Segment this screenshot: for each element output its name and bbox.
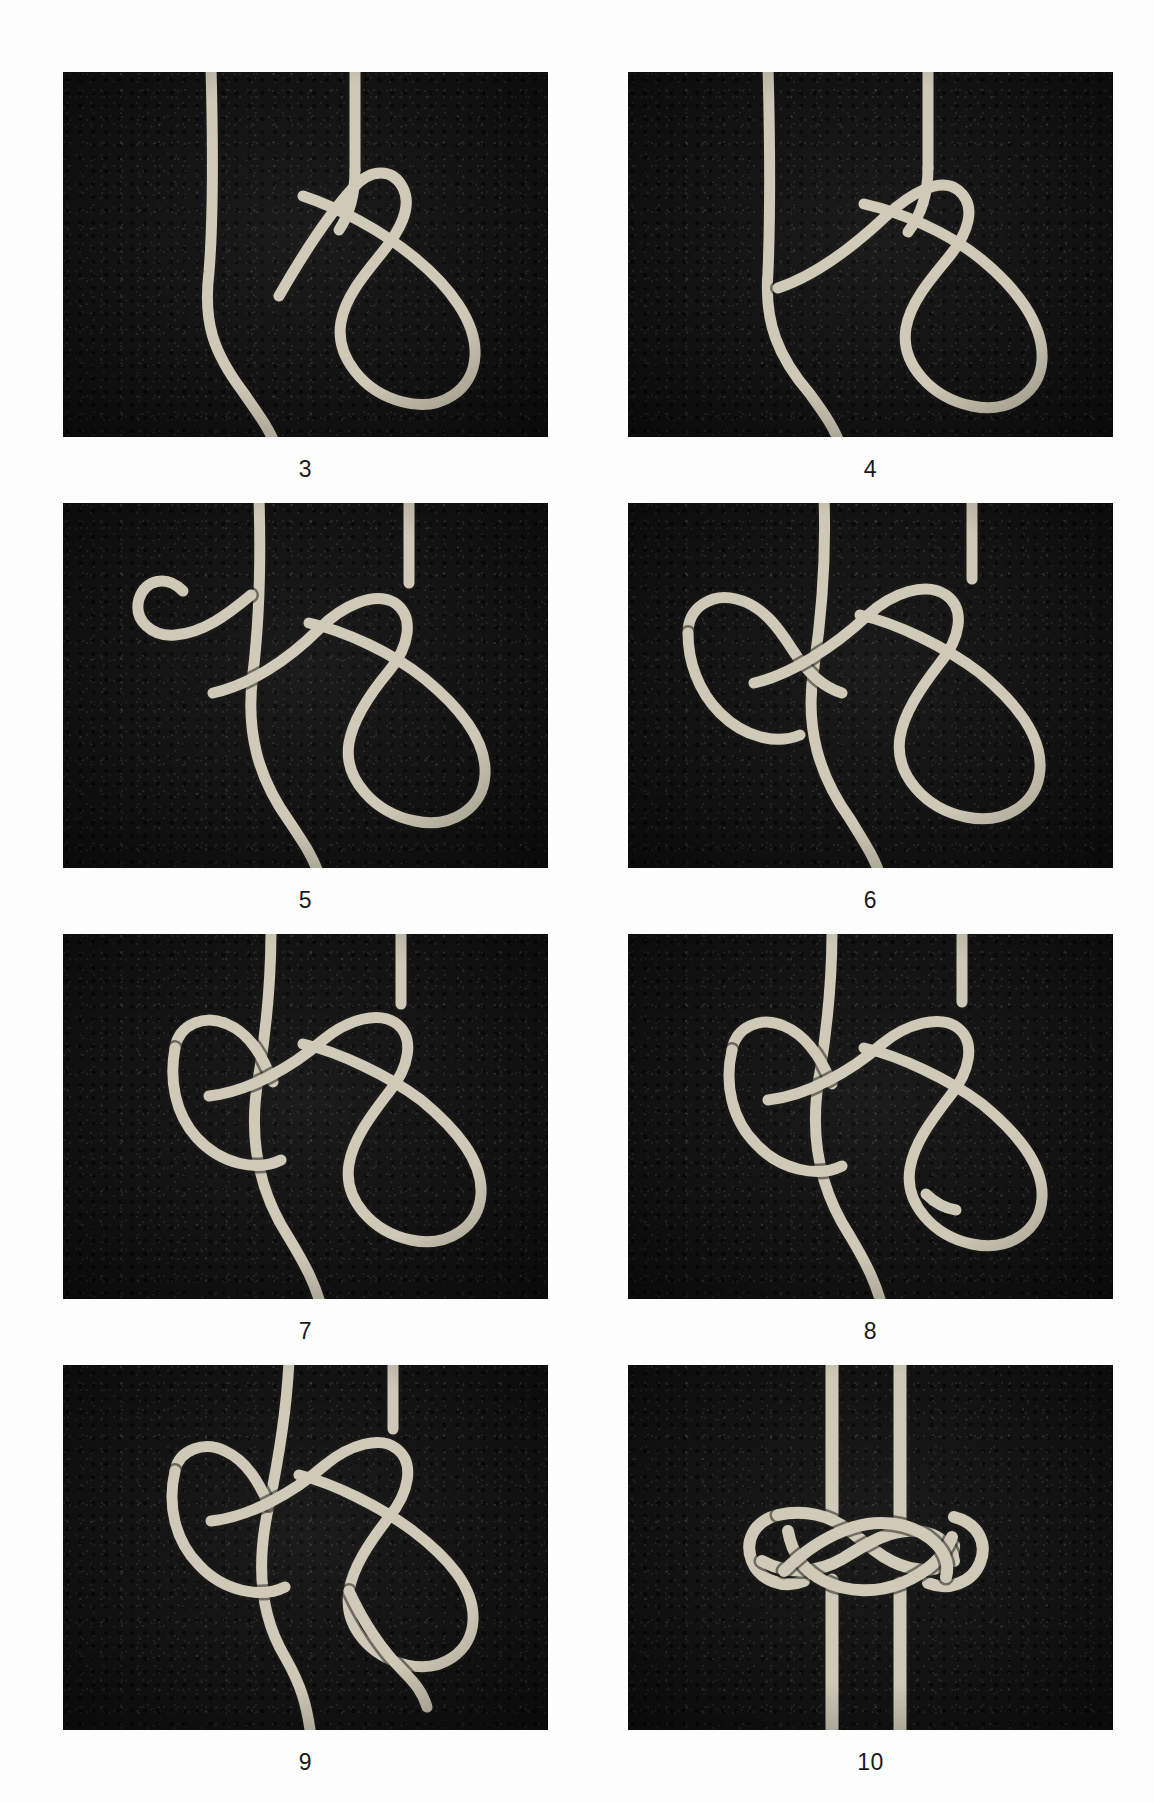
figure-9: 9 (63, 1365, 548, 1796)
figure-caption-3: 3 (63, 437, 548, 503)
figure-caption-9: 9 (63, 1730, 548, 1796)
figure-10: 10 (628, 1365, 1113, 1796)
figure-5: 5 (63, 503, 548, 934)
figure-grid: 3 4 (63, 72, 1093, 1796)
photo-4 (628, 72, 1113, 437)
photo-7 (63, 934, 548, 1299)
figure-6: 6 (628, 503, 1113, 934)
figure-caption-4: 4 (628, 437, 1113, 503)
figure-caption-6: 6 (628, 868, 1113, 934)
knot-diagram-7 (63, 934, 548, 1299)
figure-caption-10: 10 (628, 1730, 1113, 1796)
photo-10 (628, 1365, 1113, 1730)
figure-caption-8: 8 (628, 1299, 1113, 1365)
photo-9 (63, 1365, 548, 1730)
knot-diagram-3 (63, 72, 548, 437)
photo-8 (628, 934, 1113, 1299)
figure-8: 8 (628, 934, 1113, 1365)
figure-3: 3 (63, 72, 548, 503)
knot-diagram-10 (628, 1365, 1113, 1730)
photo-3 (63, 72, 548, 437)
knot-diagram-6 (628, 503, 1113, 868)
figure-caption-5: 5 (63, 868, 548, 934)
photo-6 (628, 503, 1113, 868)
figure-caption-7: 7 (63, 1299, 548, 1365)
knot-diagram-8 (628, 934, 1113, 1299)
page-sheet: 3 4 (0, 0, 1154, 1803)
knot-diagram-9 (63, 1365, 548, 1730)
knot-diagram-4 (628, 72, 1113, 437)
knot-diagram-5 (63, 503, 548, 868)
photo-5 (63, 503, 548, 868)
figure-4: 4 (628, 72, 1113, 503)
figure-7: 7 (63, 934, 548, 1365)
